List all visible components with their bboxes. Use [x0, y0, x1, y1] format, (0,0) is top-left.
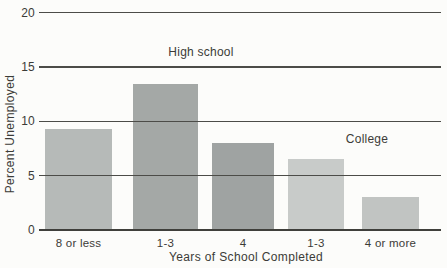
bar-college-1-3 — [288, 159, 344, 230]
x-axis-title: Years of School Completed — [169, 250, 323, 264]
y-tick-label-20: 20 — [5, 5, 35, 21]
y-tick-label-15: 15 — [5, 59, 35, 75]
bar-highschool-4 — [212, 143, 274, 230]
y-tick-label-10: 10 — [5, 113, 35, 129]
x-tick-label-4: 4 or more — [365, 236, 416, 250]
y-tick-label-5: 5 — [5, 168, 35, 184]
annotation-college: College — [346, 132, 388, 146]
bar-highschool-1-3 — [133, 84, 198, 230]
x-tick-label-3: 1-3 — [307, 236, 324, 250]
gridline-15 — [39, 66, 441, 67]
bar-college-4-or-more — [362, 197, 419, 230]
x-axis-line — [39, 229, 441, 231]
annotation-high-school: High school — [168, 45, 233, 59]
x-tick-label-1: 1-3 — [157, 236, 174, 250]
y-tick-label-0: 0 — [5, 222, 35, 238]
bar-8-or-less — [45, 129, 112, 230]
unemployment-by-education-bar-chart: Percent Unemployed 8 or less1-341-34 or … — [0, 0, 447, 268]
x-tick-label-2: 4 — [240, 236, 247, 250]
x-tick-label-0: 8 or less — [56, 236, 102, 250]
gridline-20 — [39, 12, 441, 13]
gridline-10 — [39, 121, 441, 122]
gridline-5 — [39, 175, 441, 176]
